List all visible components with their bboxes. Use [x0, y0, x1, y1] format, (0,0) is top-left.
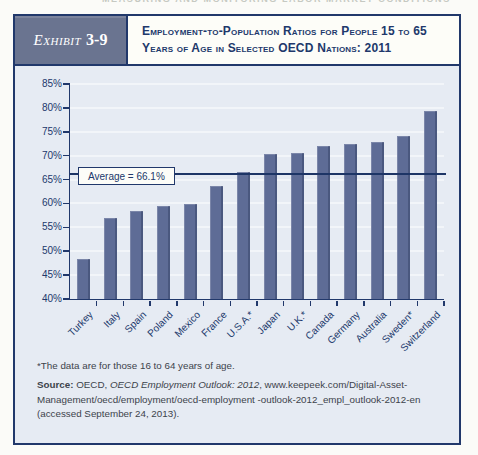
- bar-france: [210, 186, 223, 299]
- bar-japan: [264, 154, 277, 299]
- x-axis-label: Italy: [101, 309, 122, 330]
- exhibit-box: Exhibit 3-9 Employment-to-Population Rat…: [13, 14, 461, 445]
- source-title-italic: OECD Employment Outlook: 2012: [110, 379, 259, 390]
- x-axis-label: Turkey: [66, 309, 95, 338]
- gridline: [70, 107, 444, 109]
- gridline: [70, 83, 444, 85]
- exhibit-label: Exhibit: [34, 32, 82, 49]
- x-axis-tick: [203, 301, 205, 306]
- y-axis-tick-label: 55%: [42, 222, 62, 232]
- gridline: [70, 202, 444, 204]
- bar-switzerland: [424, 111, 437, 299]
- x-axis-tick: [123, 301, 125, 306]
- page: MEASURING AND MONITORING LABOR MARKET CO…: [0, 0, 478, 455]
- y-axis-tick-label: 60%: [42, 198, 62, 208]
- x-axis-label: Poland: [145, 309, 175, 339]
- y-axis-tick: [63, 131, 70, 133]
- x-axis-label: U.K.*: [285, 309, 309, 333]
- y-axis-tick: [63, 227, 70, 229]
- y-axis-tick-label: 75%: [42, 127, 62, 137]
- x-axis-tick: [363, 301, 365, 306]
- source-note: Source: OECD, OECD Employment Outlook: 2…: [37, 378, 443, 422]
- y-axis-labels: 40%45%50%55%60%65%70%75%80%85%: [15, 84, 62, 299]
- running-header-text: MEASURING AND MONITORING LABOR MARKET CO…: [102, 0, 451, 4]
- footnote-asterisk: *The data are for those 16 to 64 years o…: [37, 360, 443, 371]
- y-axis-tick: [63, 298, 70, 300]
- bar-canada: [317, 146, 330, 299]
- x-axis-tick: [336, 301, 338, 306]
- x-axis-label: France: [199, 309, 229, 339]
- x-axis-tick: [176, 301, 178, 306]
- gridline: [70, 155, 444, 157]
- exhibit-header: Exhibit 3-9 Employment-to-Population Rat…: [15, 16, 459, 66]
- gridline: [70, 226, 444, 228]
- y-axis-tick-label: 40%: [42, 294, 62, 304]
- gridline: [70, 250, 444, 252]
- x-axis-tick: [390, 301, 392, 306]
- bar-australia: [371, 142, 384, 299]
- gridline: [70, 274, 444, 276]
- x-axis-labels: TurkeyItalySpainPolandMexicoFranceU.S.A.…: [69, 301, 443, 359]
- gridline: [70, 131, 444, 133]
- x-axis-tick: [256, 301, 258, 306]
- x-axis-tick: [283, 301, 285, 306]
- source-text-pre: OECD,: [73, 379, 109, 390]
- y-axis-tick: [63, 203, 70, 205]
- y-axis-tick-label: 45%: [42, 270, 62, 280]
- x-axis-tick: [96, 301, 98, 306]
- y-axis-tick: [63, 250, 70, 252]
- x-axis-tick: [149, 301, 151, 306]
- exhibit-title: Employment-to-Population Ratios for Peop…: [128, 16, 459, 64]
- source-label: Source:: [37, 379, 73, 390]
- y-axis-tick: [63, 274, 70, 276]
- y-axis-tick-label: 50%: [42, 246, 62, 256]
- bar-usa: [237, 172, 250, 299]
- x-axis-tick: [230, 301, 232, 306]
- y-axis-tick-label: 85%: [42, 79, 62, 89]
- bar-italy: [104, 218, 117, 299]
- bar-germany: [344, 144, 357, 299]
- exhibit-tag: Exhibit 3-9: [15, 16, 128, 64]
- x-axis-label: Japan: [255, 309, 282, 336]
- exhibit-number: 3-9: [86, 31, 107, 49]
- y-axis-tick: [63, 179, 70, 181]
- y-axis-tick-label: 65%: [42, 175, 62, 185]
- exhibit-body: 40%45%50%55%60%65%70%75%80%85% Average =…: [15, 66, 459, 443]
- x-axis-tick: [443, 301, 445, 306]
- bar-sweden: [397, 136, 410, 299]
- x-axis-label: Mexico: [172, 309, 202, 339]
- footnotes: *The data are for those 16 to 64 years o…: [37, 360, 443, 422]
- y-axis-tick: [63, 107, 70, 109]
- x-axis-tick: [417, 301, 419, 306]
- y-axis-tick-label: 70%: [42, 151, 62, 161]
- bar-mexico: [184, 204, 197, 299]
- x-axis-label: U.S.A.*: [224, 309, 255, 340]
- bar-spain: [130, 211, 143, 299]
- average-label: Average = 66.1%: [78, 167, 175, 185]
- bar-turkey: [77, 259, 90, 299]
- plot-area: Average = 66.1%: [69, 84, 444, 300]
- y-axis-tick: [63, 155, 70, 157]
- y-axis-tick-label: 80%: [42, 103, 62, 113]
- y-axis-tick: [63, 83, 70, 85]
- x-axis-tick: [310, 301, 312, 306]
- bar-poland: [157, 206, 170, 299]
